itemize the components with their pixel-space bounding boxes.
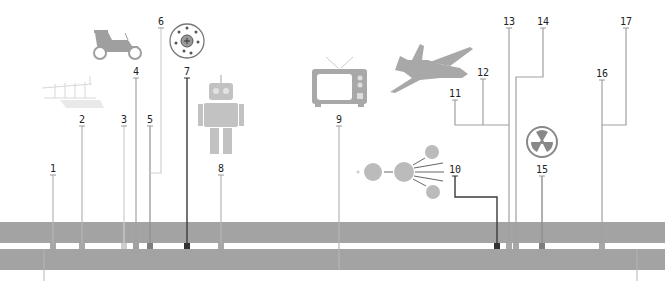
event-label-7: 7: [184, 66, 190, 77]
event-label-14: 14: [537, 16, 549, 27]
event-label-15: 15: [536, 164, 548, 175]
event-label-3: 3: [121, 114, 127, 125]
robot-icon: [198, 75, 244, 154]
event-label-11: 11: [449, 88, 461, 99]
event-label-5: 5: [147, 114, 153, 125]
event-label-6: 6: [158, 16, 164, 27]
jet-airplane-icon: [390, 44, 473, 93]
event-label-17: 17: [620, 16, 632, 27]
event-label-2: 2: [79, 114, 85, 125]
nuclear-fission-icon: [357, 145, 445, 199]
event-label-9: 9: [336, 114, 342, 125]
radiation-icon: [527, 127, 557, 157]
event-label-10: 10: [449, 164, 461, 175]
event-label-12: 12: [477, 67, 489, 78]
vintage-car-icon: [94, 30, 141, 59]
television-icon: [312, 57, 367, 107]
wright-flyer-airplane-icon: [42, 76, 104, 108]
event-label-13: 13: [503, 16, 515, 27]
timeline-diagram: 1 2 3 4 5 6 7 8 9 10 11 12 13 14 15 16 1…: [0, 0, 665, 281]
timeline-markers: [50, 243, 605, 249]
connector-lines: [0, 0, 665, 281]
event-label-4: 4: [133, 66, 139, 77]
event-label-1: 1: [50, 163, 56, 174]
atom-nucleus-icon: [170, 24, 204, 58]
event-label-16: 16: [596, 68, 608, 79]
event-label-8: 8: [218, 163, 224, 174]
